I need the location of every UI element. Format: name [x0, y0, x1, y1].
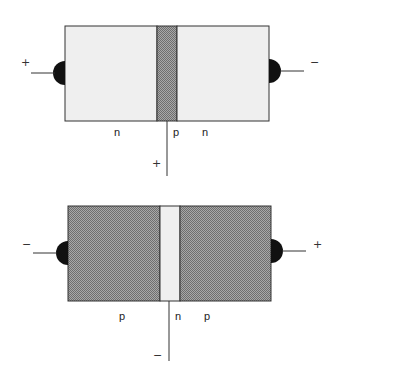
region-label-left: n [114, 126, 120, 138]
right-terminal-sign: − [310, 56, 319, 69]
p-region-left [68, 206, 160, 301]
p-region-base [157, 26, 177, 121]
p-region-right [180, 206, 271, 301]
right-contact-icon [271, 239, 283, 263]
region-label-right: p [204, 310, 210, 322]
region-label-middle: n [175, 310, 181, 322]
right-contact-icon [269, 59, 281, 83]
base-terminal-sign: + [152, 157, 161, 170]
n-region-base [160, 206, 180, 301]
transistor-diagrams: + − + n p n − + − p n p [0, 0, 396, 380]
n-region-right [177, 26, 269, 121]
right-terminal-sign: + [313, 238, 322, 251]
region-label-right: n [202, 126, 208, 138]
npn-diagram: + − + n p n [21, 26, 319, 176]
left-terminal-sign: + [21, 56, 30, 69]
base-terminal-sign: − [153, 349, 162, 362]
left-contact-icon [56, 241, 68, 265]
n-region-left [65, 26, 157, 121]
pnp-diagram: − + − p n p [22, 206, 322, 362]
left-terminal-sign: − [22, 238, 31, 251]
region-label-middle: p [173, 126, 179, 138]
region-label-left: p [119, 310, 125, 322]
